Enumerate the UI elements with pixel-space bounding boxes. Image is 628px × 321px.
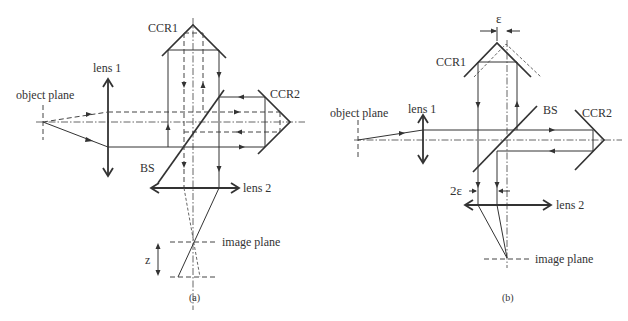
label-lens2: lens 2 bbox=[243, 181, 271, 195]
caption-a: (a) bbox=[189, 292, 200, 304]
ray-dashed-converging bbox=[184, 188, 200, 277]
arrowhead-icon bbox=[236, 130, 242, 135]
label-ccr2: CCR2 bbox=[582, 106, 612, 120]
ray-solid-converging bbox=[178, 188, 219, 277]
arrowhead-icon bbox=[156, 243, 161, 249]
label-ccr2: CCR2 bbox=[270, 87, 300, 101]
ray-converging-left bbox=[478, 205, 507, 258]
ray-converging-right bbox=[497, 205, 507, 258]
label-image-plane: image plane bbox=[535, 252, 593, 266]
arrowhead-icon bbox=[515, 101, 520, 107]
label-lens1: lens 1 bbox=[408, 102, 436, 116]
arrowhead-icon bbox=[166, 124, 171, 130]
arrowhead-icon bbox=[201, 82, 206, 88]
arrowhead-icon bbox=[399, 131, 405, 136]
label-epsilon: ε bbox=[496, 11, 502, 26]
arrowhead-icon bbox=[182, 82, 187, 88]
panel-a: CCR1 CCR2 lens 1 object plane BS lens 2 … bbox=[16, 18, 305, 310]
ccr1-displaced-mirror bbox=[474, 44, 541, 77]
label-bs: BS bbox=[543, 103, 558, 117]
label-object-plane: object plane bbox=[330, 106, 388, 120]
label-lens1: lens 1 bbox=[93, 61, 121, 75]
arrowhead-icon bbox=[182, 162, 187, 168]
beam-splitter bbox=[473, 106, 537, 172]
arrowhead-icon bbox=[506, 29, 512, 34]
arrowhead-icon bbox=[491, 29, 497, 34]
ray-dashed-upper bbox=[43, 112, 108, 122]
panel-b: ε CCR1 CCR2 lens 1 object plane BS 2ε le… bbox=[330, 11, 622, 304]
arrowhead-icon bbox=[238, 95, 244, 100]
arrowhead-icon bbox=[239, 145, 245, 150]
ray-solid-lower bbox=[43, 122, 108, 147]
arrowhead-icon bbox=[495, 182, 500, 188]
arrowhead-icon bbox=[217, 72, 222, 78]
arrowhead-icon bbox=[549, 128, 555, 133]
optical-diagram: CCR1 CCR2 lens 1 object plane BS lens 2 … bbox=[0, 0, 628, 321]
label-lens2: lens 2 bbox=[556, 198, 584, 212]
label-image-plane: image plane bbox=[222, 235, 280, 249]
label-object-plane: object plane bbox=[16, 88, 74, 102]
ray-solid-input bbox=[358, 130, 423, 140]
label-two-epsilon: 2ε bbox=[450, 183, 463, 198]
label-ccr1: CCR1 bbox=[148, 21, 178, 35]
ccr1-mirror bbox=[464, 43, 531, 77]
caption-b: (b) bbox=[502, 292, 514, 304]
label-bs: BS bbox=[140, 161, 155, 175]
arrowhead-icon bbox=[217, 166, 222, 172]
arrowhead-icon bbox=[549, 149, 555, 154]
arrowhead-icon bbox=[498, 189, 503, 194]
label-ccr1: CCR1 bbox=[436, 55, 466, 69]
arrowhead-icon bbox=[476, 102, 481, 108]
arrowhead-icon bbox=[472, 189, 477, 194]
label-z: z bbox=[145, 253, 150, 267]
arrowhead-icon bbox=[156, 270, 161, 276]
arrowhead-icon bbox=[476, 182, 481, 188]
arrowhead-icon bbox=[234, 110, 240, 115]
